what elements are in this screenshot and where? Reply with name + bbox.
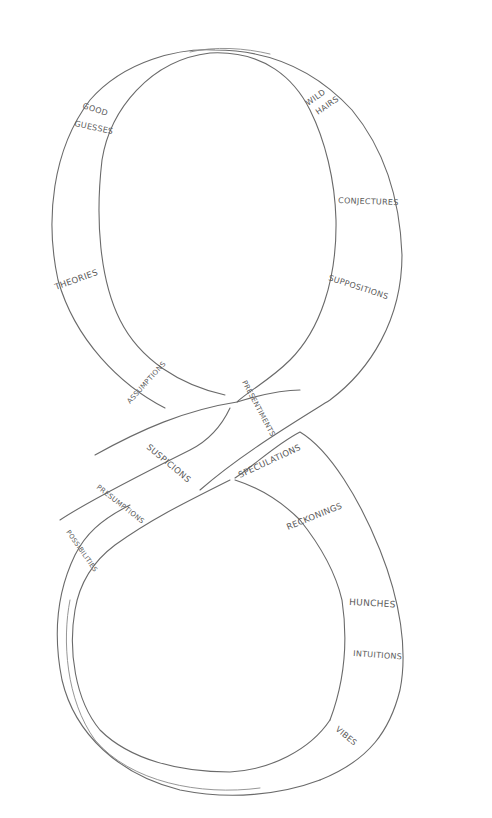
label-good: GOOD xyxy=(81,101,109,118)
label-presentiments: PRESENTIMENTS xyxy=(240,379,276,438)
label-suppositions: SUPPOSITIONS xyxy=(327,273,389,301)
label-suspicions: SUSPICIONS xyxy=(145,442,193,485)
label-speculations: SPECULATIONS xyxy=(237,442,303,480)
lower-loop-echo-edge xyxy=(66,600,260,790)
label-assumptions: ASSUMPTIONS xyxy=(126,360,168,406)
label-guesses: GUESSES xyxy=(74,119,115,136)
figure-eight-drawing: GOOD GUESSES WILD HAIRS CONJECTURES THEO… xyxy=(0,0,492,818)
label-vibes: VIBES xyxy=(334,725,359,748)
label-conjectures: CONJECTURES xyxy=(338,196,399,207)
label-presumptions: PRESUMPTIONS xyxy=(95,483,146,525)
label-reckonings: RECKONINGS xyxy=(285,500,344,531)
label-hunches: HUNCHES xyxy=(349,597,396,609)
label-theories: THEORIES xyxy=(52,267,99,292)
label-intuitions: INTUITIONS xyxy=(353,649,403,661)
lower-loop-outer-edge xyxy=(57,505,320,795)
speculations-lower-edge xyxy=(235,480,345,720)
upper-loop-inner-edge xyxy=(99,53,336,402)
crossing-lower-edge xyxy=(60,408,230,520)
